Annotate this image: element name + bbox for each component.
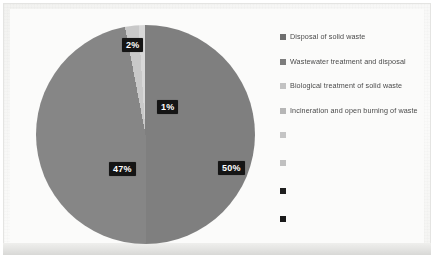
- legend-item[interactable]: Incineration and open burning of waste: [280, 106, 430, 116]
- legend-swatch-icon: [280, 216, 286, 222]
- pie-slice-label-wastewater: 47%: [109, 162, 136, 176]
- chart-legend: Disposal of solid wasteWastewater treatm…: [280, 32, 430, 242]
- legend-item[interactable]: [280, 158, 430, 167]
- legend-item-label: Wastewater treatment and disposal: [290, 57, 406, 67]
- legend-item[interactable]: Wastewater treatment and disposal: [280, 57, 430, 67]
- legend-item[interactable]: [280, 186, 430, 195]
- page-bottom-shadow: [3, 243, 431, 255]
- pie-slice-label-incineration: 1%: [157, 100, 178, 114]
- pie-slice-label-disposal: 50%: [218, 161, 245, 175]
- legend-item[interactable]: Biological treatment of solid waste: [280, 81, 430, 91]
- chart-screenshot: 2% 1% 47% 50% Disposal of solid wasteWas…: [0, 0, 436, 274]
- pie-disc: [36, 25, 255, 244]
- legend-swatch-icon: [280, 59, 286, 65]
- legend-item[interactable]: [280, 130, 430, 139]
- legend-swatch-icon: [280, 188, 286, 194]
- pie-slice-label-biological: 2%: [122, 38, 143, 52]
- legend-swatch-icon: [280, 34, 286, 40]
- legend-item[interactable]: [280, 214, 430, 223]
- legend-swatch-icon: [280, 160, 286, 166]
- legend-item-label: Biological treatment of solid waste: [290, 81, 402, 91]
- legend-swatch-icon: [280, 83, 286, 89]
- pie-chart: 2% 1% 47% 50%: [36, 25, 255, 244]
- legend-item[interactable]: Disposal of solid waste: [280, 32, 430, 42]
- legend-swatch-icon: [280, 132, 286, 138]
- legend-item-label: Disposal of solid waste: [290, 32, 365, 42]
- legend-swatch-icon: [280, 108, 286, 114]
- legend-item-label: Incineration and open burning of waste: [290, 106, 418, 116]
